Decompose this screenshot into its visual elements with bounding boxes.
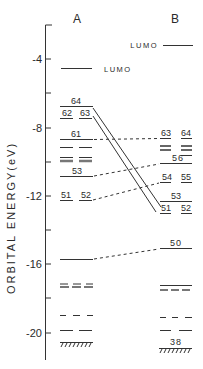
tick-label: -8 (32, 122, 42, 134)
orbital-label: 63 (161, 128, 171, 138)
orbital-label: 38 (170, 337, 182, 347)
orbital-label: 54 (162, 172, 172, 182)
orbital-label: 64 (71, 96, 81, 106)
orbital-label: 61 (71, 129, 81, 139)
orbital-label: 51 (61, 190, 71, 200)
orbital-label: 52 (181, 203, 191, 213)
hatch-a (60, 343, 93, 348)
hatch-b (159, 349, 192, 354)
orbital-label: 52 (81, 190, 91, 200)
orbital-label: 51 (161, 203, 171, 213)
tick-label: -16 (26, 258, 42, 270)
orbital-label: 53 (171, 191, 181, 201)
y-axis (46, 25, 53, 360)
orbital-label: 56 (172, 153, 184, 163)
y-axis-label: ORBITAL ENERGY(eV) (5, 142, 17, 294)
tick-label: -20 (26, 327, 42, 339)
column-b-levels (160, 46, 193, 331)
column-b-header: B (171, 12, 179, 26)
orbital-energy-diagram: A B -4 -8 -12 -16 -20 ORBITAL ENERGY(eV) (0, 0, 203, 369)
column-b-labels: LUMO 63 64 56 54 55 53 51 52 50 38 (130, 41, 191, 347)
column-a-header: A (73, 12, 81, 26)
y-axis-tick-labels: -4 -8 -12 -16 -20 (26, 53, 42, 339)
column-a-labels: LUMO 64 62 63 61 53 51 52 (61, 65, 132, 200)
orbital-label: 55 (181, 172, 191, 182)
orbital-label: 64 (181, 128, 191, 138)
orbital-label: 62 (62, 108, 72, 118)
tick-label: -12 (26, 190, 42, 202)
lumo-label-b: LUMO (130, 41, 158, 50)
lumo-label-a: LUMO (104, 65, 132, 74)
tick-label: -4 (32, 53, 42, 65)
correlation-lines (93, 108, 161, 259)
orbital-label: 63 (80, 108, 90, 118)
orbital-label: 53 (72, 166, 82, 176)
orbital-label: 50 (170, 238, 182, 248)
